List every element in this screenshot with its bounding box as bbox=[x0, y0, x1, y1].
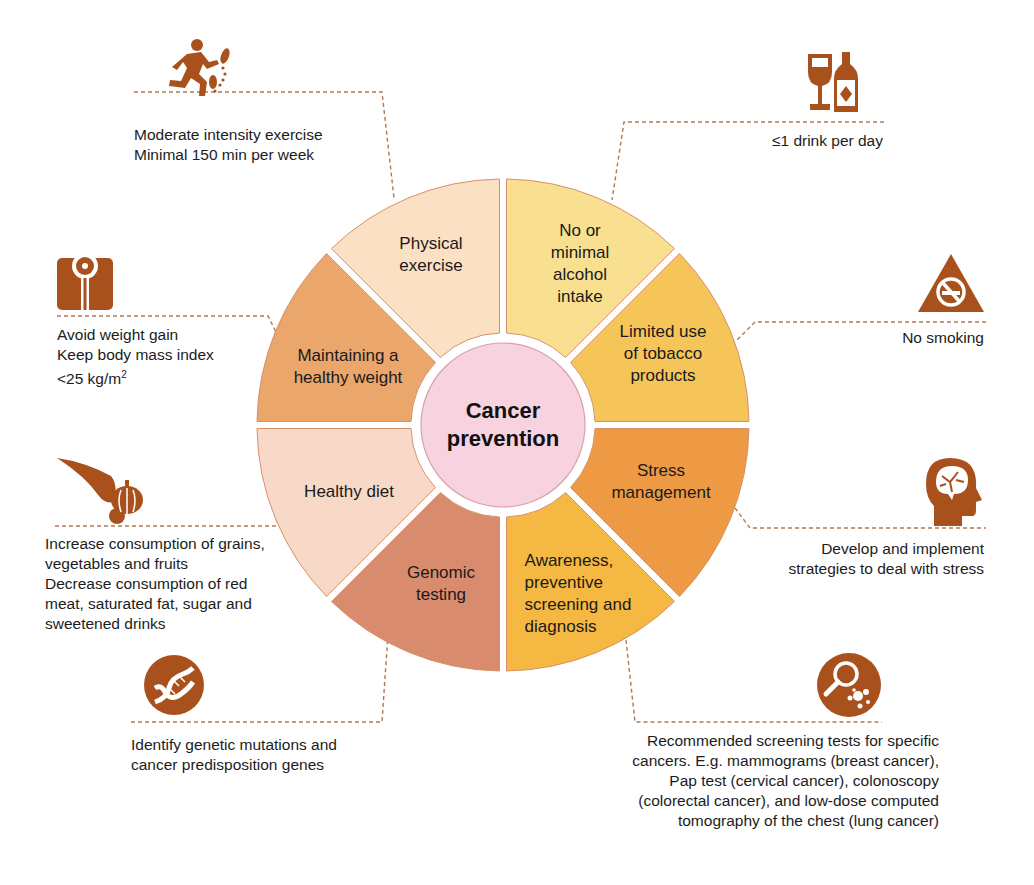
cornucopia-icon bbox=[55, 456, 145, 526]
segment-label-weight: Maintaining a healthy weight bbox=[294, 345, 403, 389]
note-weight-line3: <25 kg/m2 bbox=[57, 365, 214, 389]
note-exercise: Moderate intensity exercise Minimal 150 … bbox=[134, 125, 323, 165]
magnifier-cells-icon bbox=[816, 652, 882, 718]
note-genomic: Identify genetic mutations and cancer pr… bbox=[131, 735, 337, 775]
note-weight-line1: Avoid weight gain bbox=[57, 325, 214, 345]
running-person-icon bbox=[165, 38, 237, 98]
note-weight: Avoid weight gain Keep body mass index <… bbox=[57, 325, 214, 389]
bmi-unit-exponent: 2 bbox=[121, 369, 127, 380]
segment-label-tobacco: Limited use of tobacco products bbox=[620, 321, 707, 387]
cancer-prevention-diagram: Cancer prevention No or minimal alcohol … bbox=[0, 0, 1034, 885]
note-alcohol: ≤1 drink per day bbox=[772, 131, 883, 151]
dna-icon bbox=[143, 654, 205, 716]
note-diet: Increase consumption of grains, vegetabl… bbox=[45, 534, 265, 634]
wine-glass-bottle-icon bbox=[806, 52, 860, 114]
segment-label-diet: Healthy diet bbox=[304, 481, 394, 503]
segment-label-stress: Stress management bbox=[611, 460, 710, 504]
center-label: Cancer prevention bbox=[447, 397, 559, 453]
note-smoking: No smoking bbox=[902, 328, 984, 348]
note-weight-line2: Keep body mass index bbox=[57, 345, 214, 365]
segment-label-genomic: Genomic testing bbox=[407, 562, 475, 606]
segment-label-exercise: Physical exercise bbox=[399, 233, 462, 277]
brain-head-icon bbox=[922, 456, 984, 528]
bmi-threshold: <25 kg/m bbox=[57, 370, 121, 387]
segment-label-alcohol: No or minimal alcohol intake bbox=[551, 220, 610, 308]
no-smoking-icon bbox=[916, 252, 986, 314]
weighing-scale-icon bbox=[57, 252, 113, 310]
note-stress: Develop and implement strategies to deal… bbox=[788, 539, 984, 579]
note-screening: Recommended screening tests for specific… bbox=[632, 731, 939, 831]
segment-label-screening: Awareness, preventive screening and diag… bbox=[525, 550, 632, 638]
